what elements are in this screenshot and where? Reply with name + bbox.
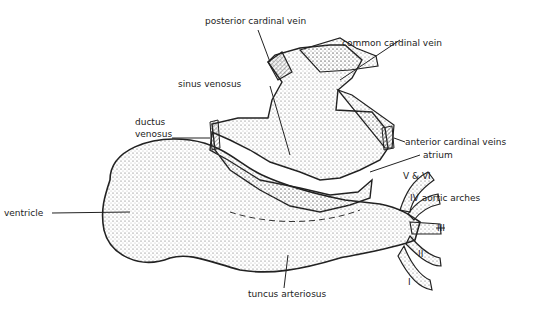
- label-posterior-cardinal-vein: posterior cardinal vein: [205, 16, 306, 27]
- label-sinus-venosus: sinus venosus: [178, 79, 241, 90]
- label-ventricle: ventricle: [4, 208, 43, 219]
- label-arch-ii: II: [418, 249, 423, 260]
- label-ductus-venosus-2: venosus: [135, 129, 172, 140]
- label-truncus-arteriosus: tuncus arteriosus: [248, 289, 326, 300]
- label-arch-iii: III: [437, 223, 445, 234]
- label-arch-i: I: [408, 277, 411, 288]
- heart-drawing: [0, 0, 556, 310]
- label-atrium: atrium: [423, 150, 453, 161]
- label-anterior-cardinal-veins: anterior cardinal veins: [405, 137, 506, 148]
- label-common-cardinal-vein: common cardinal vein: [342, 38, 442, 49]
- heart-diagram: posterior cardinal vein common cardinal …: [0, 0, 556, 310]
- label-arch-v-vi: V & VI: [403, 171, 431, 182]
- label-ductus-venosus-1: ductus: [135, 117, 165, 128]
- label-arch-iv: IV aortic arches: [410, 193, 480, 204]
